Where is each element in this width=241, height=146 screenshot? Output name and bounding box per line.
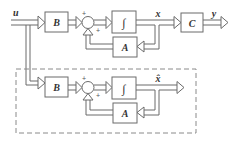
- label-B-bottom: B: [52, 82, 60, 93]
- label-integral-top: ∫: [121, 16, 126, 30]
- sum-sign-top-2: +: [96, 27, 100, 34]
- block-diagram: u B ∫ A C x y + + B ∫ A x̂ + +: [0, 0, 241, 146]
- state-x-line: [136, 17, 181, 53]
- sum-junction-bottom: [82, 82, 94, 94]
- sum-sign-bottom-2: +: [96, 92, 100, 99]
- b-to-sum-bottom-arrow: [68, 82, 82, 94]
- branch-down-line: [26, 25, 30, 85]
- top-system: [11, 11, 228, 85]
- label-y: y: [211, 8, 217, 19]
- b-to-sum-arrow: [68, 17, 82, 29]
- label-xhat: x̂: [155, 73, 161, 84]
- label-u: u: [13, 7, 19, 18]
- sum-sign-bottom-1: +: [82, 75, 86, 82]
- state-xhat-line: [136, 82, 184, 119]
- sum-junction-top: [82, 17, 94, 29]
- branch-to-b-bottom-arrow: [26, 77, 45, 89]
- observer-dashed-boundary: [16, 69, 196, 133]
- sum-sign-top-1: +: [82, 10, 86, 17]
- label-x: x: [155, 8, 161, 19]
- label-A-bottom: A: [121, 108, 129, 119]
- label-A-top: A: [121, 42, 129, 53]
- label-B-top: B: [52, 17, 60, 28]
- label-C: C: [189, 18, 196, 29]
- label-integral-bottom: ∫: [121, 82, 126, 96]
